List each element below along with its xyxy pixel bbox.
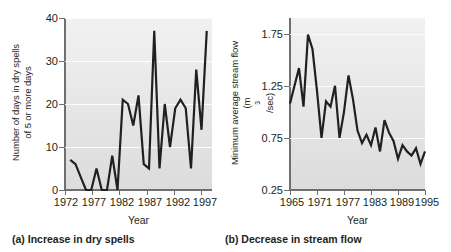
y-tick-label-1-25: 1.25 (262, 80, 283, 92)
y-tick-label-40: 40 (46, 12, 58, 24)
y-tick-0 (59, 190, 64, 191)
panel-increase-in-dry-spells: Number of days in dry spells of 5 or mor… (0, 0, 225, 252)
x-tick-1997 (201, 190, 202, 195)
x-axis-title-panel-b: Year (290, 214, 425, 226)
y-tick-label-30: 30 (46, 55, 58, 67)
x-tick-label-1971: 1971 (308, 196, 332, 208)
y-tick-0-25 (284, 190, 289, 191)
plot-area-panel-b: 1.75 1.25 0.75 0.25 1965 1971 1977 1983 … (290, 18, 425, 190)
x-tick-label-1965: 1965 (280, 196, 304, 208)
data-line-panel-b (290, 18, 425, 190)
y-tick-0-75 (284, 138, 289, 139)
gridline-y-0-25: 0.25 (290, 190, 425, 191)
y-axis-title-panel-a: Number of days in dry spells of 5 or mor… (10, 15, 33, 190)
y-tick-10 (59, 147, 64, 148)
y-tick-label-10: 10 (46, 141, 58, 153)
x-tick-1977 (344, 190, 345, 195)
y-axis-title-line-1: Number of days in dry spells (10, 15, 22, 190)
x-tick-1992 (174, 190, 175, 195)
y-tick-30 (59, 61, 64, 62)
plot-area-panel-a: 40 30 20 10 0 1972 1977 1982 1987 1992 1… (65, 18, 212, 190)
y-tick-label-0: 0 (52, 184, 58, 196)
y-tick-label-0-25: 0.25 (262, 184, 283, 196)
x-tick-label-1992: 1992 (166, 196, 190, 208)
x-tick-label-1977: 1977 (82, 196, 106, 208)
x-tick-1989 (398, 190, 399, 195)
x-tick-label-1995: 1995 (415, 196, 439, 208)
x-tick-label-1989: 1989 (390, 196, 414, 208)
x-tick-label-1997: 1997 (193, 196, 217, 208)
x-tick-1987 (147, 190, 148, 195)
y-tick-label-20: 20 (46, 98, 58, 110)
y-axis-title-line-2: of 5 or more days (22, 15, 34, 190)
y-tick-40 (59, 18, 64, 19)
x-tick-label-1983: 1983 (363, 196, 387, 208)
x-tick-1972 (65, 190, 66, 195)
caption-panel-b: (b) Decrease in stream flow (225, 233, 362, 245)
x-tick-1983 (371, 190, 372, 195)
caption-panel-a: (a) Increase in dry spells (12, 233, 135, 245)
x-tick-label-1987: 1987 (138, 196, 162, 208)
y-tick-1-75 (284, 34, 289, 35)
x-tick-label-1972: 1972 (54, 196, 78, 208)
x-axis-title-panel-a: Year (65, 214, 212, 226)
x-tick-1965 (290, 190, 291, 195)
x-tick-1982 (119, 190, 120, 195)
y-tick-label-0-75: 0.75 (262, 132, 283, 144)
x-tick-label-1982: 1982 (110, 196, 134, 208)
data-line-panel-a (65, 18, 212, 190)
x-tick-label-1977: 1977 (336, 196, 360, 208)
panel-decrease-in-stream-flow: Minimum average stream flow (m3/sec) 1.7… (223, 0, 451, 252)
x-tick-1977 (92, 190, 93, 195)
x-tick-1971 (317, 190, 318, 195)
y-tick-1-25 (284, 86, 289, 87)
x-tick-1995 (425, 190, 426, 195)
y-tick-20 (59, 104, 64, 105)
y-axis-title-line-1: Minimum average stream flow (229, 10, 241, 196)
y-tick-label-1-75: 1.75 (262, 28, 283, 40)
